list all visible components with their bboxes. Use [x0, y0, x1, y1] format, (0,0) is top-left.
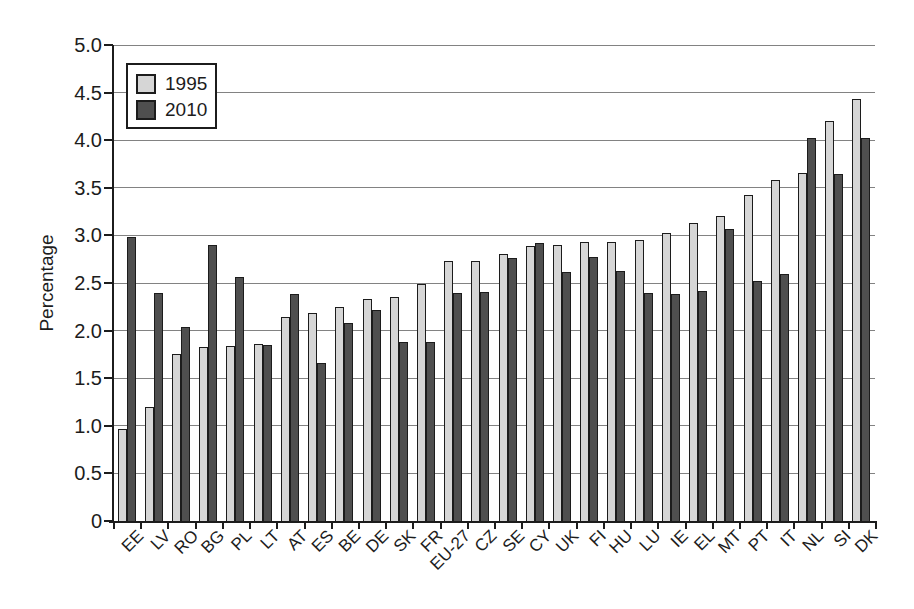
gridline	[113, 187, 875, 188]
x-tick-label-PT: PT	[746, 527, 774, 555]
bar-2010-EE	[127, 237, 136, 521]
legend-swatch-2010	[136, 100, 156, 120]
gridline	[113, 235, 875, 236]
bar-1995-BE	[335, 307, 344, 521]
x-tick	[331, 523, 333, 529]
y-tick-label: 2.5	[52, 272, 102, 294]
x-tick-label-BE: BE	[336, 527, 365, 556]
x-tick	[440, 523, 442, 529]
y-tick-label: 5.0	[52, 34, 102, 56]
y-tick-label: 2.0	[52, 320, 102, 342]
x-tick	[195, 523, 197, 529]
bar-1995-SE	[499, 254, 508, 521]
x-tick-label-IE: IE	[668, 527, 692, 551]
bar-2010-IT	[780, 274, 789, 521]
x-tick	[793, 523, 795, 529]
x-tick-label-IT: IT	[777, 527, 800, 550]
bar-1995-LV	[145, 407, 154, 521]
x-tick-label-SI: SI	[831, 527, 855, 551]
bar-1995-SI	[825, 121, 834, 521]
legend-swatch-1995	[136, 74, 156, 94]
bar-1995-LU	[635, 240, 644, 521]
x-tick	[630, 523, 632, 529]
bar-2010-DE	[372, 310, 381, 521]
y-tick-label: 1.0	[52, 415, 102, 437]
x-tick-label-LT: LT	[258, 527, 284, 553]
y-tick-label: 1.5	[52, 367, 102, 389]
bar-2010-PL	[235, 277, 244, 521]
bar-2010-IE	[671, 294, 680, 521]
bar-2010-SK	[399, 342, 408, 521]
bar-1995-SK	[390, 297, 399, 521]
bar-1995-CY	[526, 246, 535, 521]
x-tick	[685, 523, 687, 529]
bar-2010-FI	[589, 257, 598, 521]
x-tick	[358, 523, 360, 529]
legend-label-2010: 2010	[165, 99, 207, 121]
y-tick	[104, 425, 113, 427]
x-tick	[304, 523, 306, 529]
x-tick	[712, 523, 714, 529]
bar-2010-BG	[208, 245, 217, 521]
bar-1995-EE	[118, 429, 127, 521]
x-tick	[875, 523, 877, 529]
x-tick-label-DE: DE	[363, 527, 392, 556]
bar-1995-EU-27	[444, 261, 453, 521]
y-tick	[104, 472, 113, 474]
bar-2010-ES	[317, 363, 326, 521]
x-tick-label-HU: HU	[607, 527, 637, 557]
x-tick-label-CZ: CZ	[472, 527, 501, 556]
x-tick	[548, 523, 550, 529]
x-tick	[766, 523, 768, 529]
bar-2010-SE	[508, 258, 517, 521]
y-tick	[104, 377, 113, 379]
y-tick	[104, 44, 113, 46]
x-tick	[167, 523, 169, 529]
legend: 19952010	[126, 63, 217, 129]
x-tick	[521, 523, 523, 529]
y-tick	[104, 187, 113, 189]
gridline	[113, 92, 875, 93]
bar-2010-AT	[290, 294, 299, 521]
x-tick	[657, 523, 659, 529]
x-tick	[140, 523, 142, 529]
bar-2010-LU	[644, 293, 653, 521]
bar-1995-BG	[199, 347, 208, 521]
bar-1995-IE	[662, 233, 671, 521]
x-tick	[739, 523, 741, 529]
bar-1995-DE	[363, 299, 372, 521]
y-axis-line	[112, 45, 114, 523]
bar-1995-DK	[852, 99, 861, 521]
x-tick	[249, 523, 251, 529]
bar-2010-CZ	[480, 292, 489, 521]
x-tick-label-EE: EE	[119, 527, 148, 556]
bar-1995-CZ	[471, 261, 480, 521]
legend-label-1995: 1995	[165, 73, 207, 95]
x-tick-label-LU: LU	[637, 527, 665, 555]
y-tick	[104, 234, 113, 236]
bar-1995-IT	[771, 180, 780, 521]
y-tick-label: 3.0	[52, 224, 102, 246]
bar-1995-UK	[553, 245, 562, 521]
x-tick-label-ES: ES	[309, 527, 338, 556]
y-tick-label: 0.5	[52, 462, 102, 484]
bar-1995-PT	[744, 195, 753, 521]
x-tick-label-SE: SE	[500, 527, 529, 556]
bar-2010-BE	[344, 323, 353, 521]
bar-2010-HU	[616, 271, 625, 521]
legend-row-2010: 2010	[136, 97, 215, 123]
x-tick	[385, 523, 387, 529]
x-tick-label-NL: NL	[800, 527, 828, 555]
y-tick	[104, 139, 113, 141]
bar-1995-AT	[281, 317, 290, 521]
x-tick-label-AT: AT	[284, 527, 311, 554]
gridline	[113, 45, 875, 46]
bar-2010-EL	[698, 291, 707, 521]
x-tick-label-DK: DK	[852, 527, 881, 556]
bar-1995-NL	[798, 173, 807, 521]
x-tick-label-EL: EL	[691, 527, 718, 554]
bar-2010-LV	[154, 293, 163, 521]
x-tick-label-SK: SK	[391, 527, 420, 556]
bar-1995-HU	[607, 242, 616, 521]
bar-2010-UK	[562, 272, 571, 521]
